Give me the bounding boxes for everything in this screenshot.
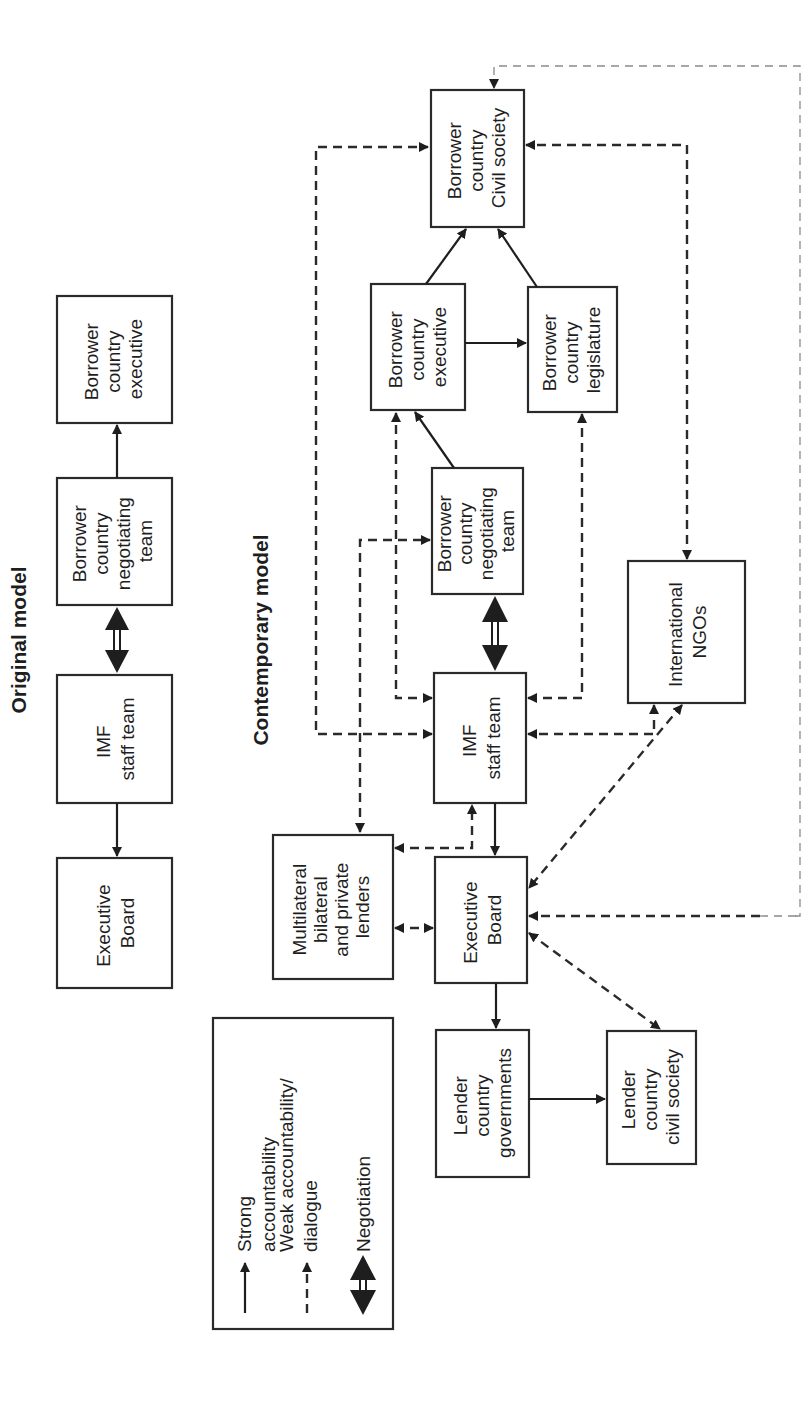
legend: Strong accountability Weak accountabilit… [213, 1018, 393, 1329]
weak-arrow-outer-loop [494, 66, 800, 916]
borrower-negotiating-team-box: Borrower country negotiating team [432, 468, 523, 594]
borrower-legislature-box: Borrower country legislature [528, 287, 617, 412]
svg-text:Borrower country: Borrower country executive [81, 318, 146, 400]
svg-text:Borrower country: Borrower country executive [385, 306, 450, 388]
multilateral-lenders-box: Multilateral bilateral and private lende… [273, 835, 393, 979]
negotiation-arrow [482, 596, 508, 671]
strong-arrow [426, 229, 466, 284]
weak-arrow [529, 705, 682, 888]
accountability-diagram: Original model Executive Board IMF staff… [0, 0, 810, 1413]
legend-negotiation-label: Negotiation [353, 1156, 374, 1252]
international-ngos-box: International NGOs [628, 561, 745, 703]
executive-board-box: Executive Board [435, 857, 527, 983]
orig-borrower-executive-box: Borrower country executive [57, 296, 172, 423]
contemporary-model: Contemporary model Borrower country Civi… [249, 66, 800, 1177]
strong-arrow [498, 229, 537, 287]
strong-arrow [415, 412, 454, 468]
lender-civil-society-box: Lender country civil society [607, 1031, 696, 1164]
weak-arrow [529, 933, 660, 1029]
weak-arrow [395, 805, 472, 848]
weak-arrow [316, 147, 432, 734]
orig-negotiating-team-box: Borrower country negotiating team [57, 478, 172, 605]
contemporary-model-title: Contemporary model [249, 534, 272, 745]
weak-arrow [528, 705, 654, 734]
borrower-civil-society-box: Borrower country Civil society [431, 90, 524, 227]
weak-arrow [396, 413, 432, 698]
weak-arrow [528, 414, 582, 698]
original-model-title: Original model [7, 566, 30, 713]
original-model: Original model Executive Board IMF staff… [7, 296, 172, 988]
imf-staff-team-box: IMF staff team [434, 673, 526, 803]
lender-governments-box: Lender country governments [436, 1030, 529, 1177]
orig-imf-staff-team-box: IMF staff team [57, 675, 172, 803]
negotiation-arrow [105, 607, 129, 673]
orig-executive-board-box: Executive Board [57, 858, 172, 988]
borrower-executive-box: Borrower country executive [371, 284, 465, 410]
svg-text:Borrower country: Borrower country legislature [539, 307, 604, 394]
